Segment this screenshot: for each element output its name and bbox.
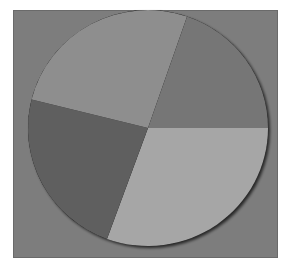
pie-chart: [0, 0, 292, 268]
pie-slices: [28, 10, 268, 246]
